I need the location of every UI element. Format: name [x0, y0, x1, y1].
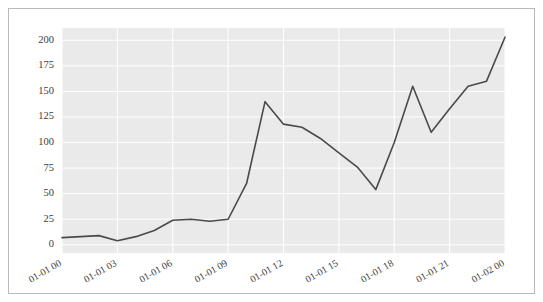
x-tick-label: 01-01 12	[248, 257, 285, 284]
x-tick-label: 01-01 00	[26, 257, 63, 284]
x-tick-label: 01-01 18	[359, 257, 396, 284]
x-tick-label: 01-02 00	[469, 257, 506, 284]
y-tick-label: 75	[44, 162, 55, 173]
y-tick-label: 200	[38, 34, 54, 45]
line-chart: 0255075100125150175200 01-01 0001-01 030…	[0, 0, 543, 302]
y-tick-label: 50	[44, 187, 55, 198]
x-tick-label: 01-01 09	[193, 257, 230, 284]
y-tick-label: 0	[49, 238, 54, 249]
y-axis-tick-labels: 0255075100125150175200	[38, 34, 54, 250]
y-tick-label: 150	[38, 85, 54, 96]
screenshot-root: 0255075100125150175200 01-01 0001-01 030…	[0, 0, 543, 302]
y-tick-label: 175	[38, 59, 54, 70]
y-tick-label: 100	[38, 136, 54, 147]
x-tick-label: 01-01 21	[414, 257, 451, 284]
y-tick-label: 125	[38, 110, 54, 121]
x-tick-label: 01-01 15	[303, 257, 340, 284]
x-axis-tick-labels: 01-01 0001-01 0301-01 0601-01 0901-01 12…	[26, 257, 506, 284]
y-tick-label: 25	[44, 213, 55, 224]
x-tick-label: 01-01 06	[137, 257, 174, 284]
x-tick-label: 01-01 03	[82, 257, 119, 284]
